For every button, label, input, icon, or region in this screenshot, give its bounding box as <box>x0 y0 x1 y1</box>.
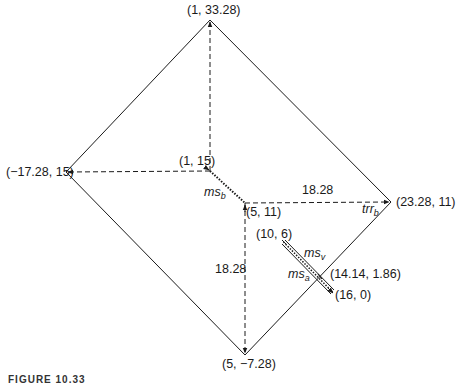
symbol-ms-b: msb <box>204 186 226 201</box>
symbol-ms-v-base: ms <box>304 246 321 260</box>
symbol-trr-b-base: trr <box>362 202 374 216</box>
symbol-ms-a-base: ms <box>288 267 305 281</box>
label-left-vertex: (−17.28, 15) <box>6 166 74 179</box>
label-bar-end: (16, 0) <box>335 289 371 302</box>
symbol-ms-a: msa <box>288 268 310 283</box>
label-bar-cross: (14.14, 1.86) <box>330 268 401 281</box>
label-top-vertex: (1, 33.28) <box>187 4 241 17</box>
symbol-ms-b-sub: b <box>221 191 226 201</box>
symbol-ms-v: msv <box>304 247 325 262</box>
label-bottom-vertex: (5, −7.28) <box>222 358 276 371</box>
symbol-trr-b: trrb <box>362 203 379 218</box>
dimension-horizontal: 18.28 <box>302 184 333 197</box>
symbol-ms-b-base: ms <box>204 185 221 199</box>
dimension-vertical: 18.28 <box>215 263 246 276</box>
symbol-ms-v-sub: v <box>321 252 326 262</box>
symbol-ms-a-sub: a <box>305 273 310 283</box>
label-right-vertex: (23.28, 11) <box>396 196 456 209</box>
symbol-trr-b-sub: b <box>374 208 379 218</box>
label-inner-upper: (1, 15) <box>179 155 215 168</box>
figure-caption: FIGURE 10.33 <box>8 374 86 385</box>
label-center: (5, 11) <box>246 206 281 219</box>
label-bar-start: (10, 6) <box>256 228 292 241</box>
vector-to-left <box>68 171 210 172</box>
